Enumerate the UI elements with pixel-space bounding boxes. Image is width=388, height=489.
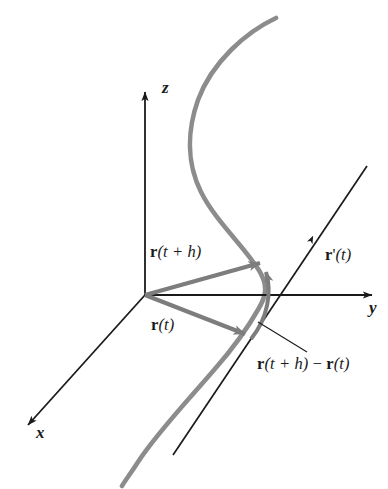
label-difference-part-1: (t + h) (264, 354, 308, 373)
label-r-prime-t: r'(t) (325, 247, 351, 264)
leader-line-difference-label (258, 322, 307, 352)
tangent-line-group (173, 166, 367, 455)
label-difference-minus: − (308, 354, 326, 373)
vector-derivative-diagram: z y x r(t + h) r(t) r'(t) r(t + h) − r(t… (0, 0, 388, 489)
label-difference-part-2: (t) (334, 354, 350, 373)
tangent-line (173, 166, 367, 455)
tangent-arrow (297, 236, 313, 270)
label-r-prime-t-rest: (t) (336, 245, 352, 264)
vector-r-t-plus-h (145, 263, 260, 295)
label-difference-bold-2: r (326, 354, 333, 373)
axis-label-x: x (36, 424, 45, 441)
x-axis-line (28, 295, 145, 425)
label-r-t-plus-h: r(t + h) (150, 244, 201, 261)
axis-label-z: z (162, 79, 169, 96)
label-r-t-plus-h-rest: (t + h) (157, 242, 201, 261)
axis-label-y: y (369, 299, 377, 316)
label-r-t-rest: (t) (158, 315, 174, 334)
label-r-t: r(t) (151, 317, 174, 334)
label-difference-vector: r(t + h) − r(t) (257, 356, 350, 373)
